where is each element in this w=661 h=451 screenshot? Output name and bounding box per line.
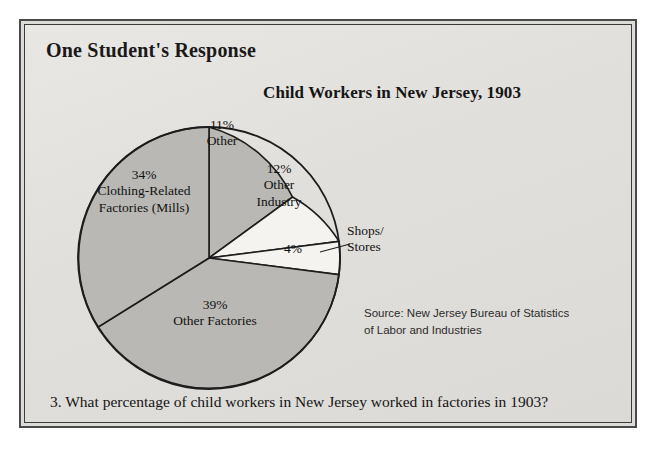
pie-label-other-factories-name: Other Factories: [135, 313, 295, 329]
pie-label-other-industry: 12% Other Industry: [234, 161, 324, 210]
pie-label-other-industry-name-line1: Other: [234, 177, 324, 193]
worksheet-page: One Student's Response Child Workers in …: [0, 0, 661, 451]
chart-source-note: Source: New Jersey Bureau of Statistics …: [364, 305, 569, 338]
pie-callout-shops-line2: Stores: [347, 239, 419, 255]
pie-label-shops-pct: 4%: [271, 241, 315, 257]
question-text: 3. What percentage of child workers in N…: [50, 393, 548, 411]
chart-source-line2: of Labor and Industries: [364, 322, 569, 339]
pie-callout-shops-stores: Shops/ Stores: [347, 223, 419, 256]
pie-label-other: 11% Other: [177, 117, 267, 150]
pie-label-shops-stores-pct: 4%: [271, 241, 315, 257]
pie-label-other-pct: 11%: [177, 117, 267, 133]
chart-source-line1: Source: New Jersey Bureau of Statistics: [364, 305, 569, 322]
pie-label-other-name: Other: [177, 133, 267, 149]
pie-label-other-factories: 39% Other Factories: [135, 297, 295, 330]
pie-callout-shops-line1: Shops/: [347, 223, 419, 239]
pie-label-clothing-related: 34% Clothing-Related Factories (Mills): [59, 167, 229, 216]
pie-label-clothing-name-line1: Clothing-Related: [59, 183, 229, 199]
page-title: One Student's Response: [46, 39, 256, 62]
pie-label-other-industry-pct: 12%: [234, 161, 324, 177]
pie-label-other-industry-name-line2: Industry: [234, 194, 324, 210]
figure-frame-outer: One Student's Response Child Workers in …: [19, 19, 637, 428]
pie-label-clothing-name-line2: Factories (Mills): [59, 200, 229, 216]
figure-frame-inner: One Student's Response Child Workers in …: [24, 24, 632, 423]
pie-label-clothing-pct: 34%: [59, 167, 229, 183]
pie-label-other-factories-pct: 39%: [135, 297, 295, 313]
